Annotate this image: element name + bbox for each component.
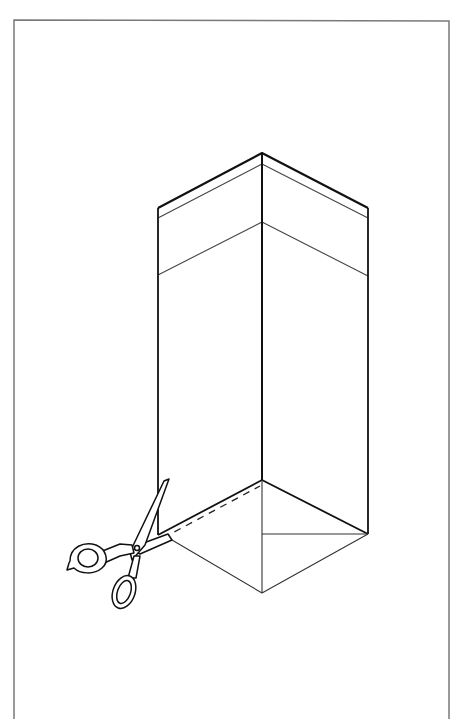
frame-border: [14, 20, 449, 719]
diagram-canvas: [0, 0, 452, 719]
carton-base-diamond: [172, 534, 368, 593]
carton-bottom-left-edge: [158, 480, 262, 535]
scissors-lower-shank: [128, 556, 140, 578]
scissors-pivot: [135, 546, 140, 551]
scissors-icon: [67, 479, 172, 612]
carton-bottom-right-edge: [262, 480, 368, 534]
carton-box: [158, 153, 368, 593]
dashed-cut-line: [163, 486, 260, 538]
scissors-left-handle-hole: [78, 549, 98, 567]
